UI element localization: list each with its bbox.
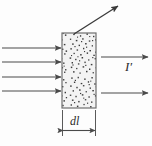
scattered-beam-arrow xyxy=(74,6,118,34)
incident-beam-arrows xyxy=(2,48,61,91)
radiation-absorption-diagram: I′ dl xyxy=(0,0,152,146)
transmitted-intensity-label: I′ xyxy=(125,60,132,73)
absorbing-medium-slab xyxy=(62,33,96,108)
thickness-label: dl xyxy=(70,115,79,127)
